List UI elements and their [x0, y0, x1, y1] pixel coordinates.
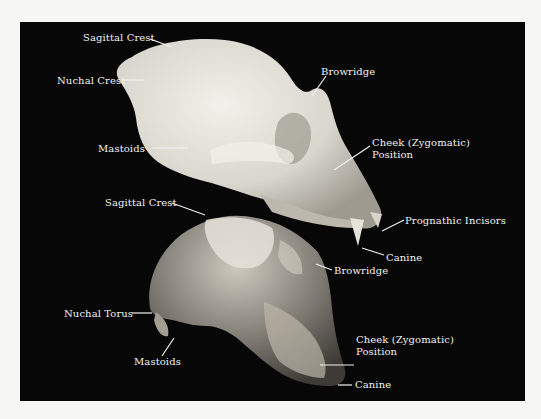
label-lower-canine: Canine — [355, 379, 391, 390]
label-upper-cheek-line1: Cheek (Zygomatic) — [372, 137, 470, 148]
label-lower-cheek-line2: Position — [356, 346, 397, 357]
leader-lower-mastoids — [162, 338, 174, 356]
leader-lower-sagittal-crest — [172, 203, 205, 215]
skull-comparison-photo: Sagittal Crest Nuchal Crest Browridge Ma… — [20, 22, 525, 401]
leader-upper-canine — [362, 248, 384, 255]
label-upper-sagittal-crest: Sagittal Crest — [83, 32, 155, 43]
label-lower-browridge: Browridge — [334, 265, 388, 276]
label-upper-cheek-line2: Position — [372, 149, 413, 160]
label-lower-mastoids: Mastoids — [134, 356, 181, 367]
label-lower-sagittal-crest: Sagittal Crest — [105, 197, 177, 208]
leader-upper-incisors — [382, 220, 404, 231]
label-upper-canine: Canine — [386, 252, 422, 263]
label-lower-nuchal-torus: Nuchal Torus — [64, 308, 133, 319]
label-lower-cheek-line1: Cheek (Zygomatic) — [356, 334, 454, 345]
label-upper-prognathic-incisors: Prognathic Incisors — [405, 215, 506, 226]
label-upper-nuchal-crest: Nuchal Crest — [57, 75, 125, 86]
label-upper-browridge: Browridge — [321, 66, 375, 77]
label-upper-mastoids: Mastoids — [98, 143, 145, 154]
